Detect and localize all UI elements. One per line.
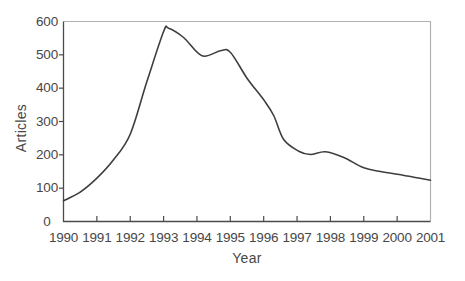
articles-series-line bbox=[64, 26, 431, 201]
y-tick-label-100: 100 bbox=[29, 180, 65, 196]
x-tick-label-1992: 1992 bbox=[113, 230, 147, 246]
y-tick-label-400: 400 bbox=[29, 80, 65, 96]
x-tick-label-1994: 1994 bbox=[180, 230, 214, 246]
y-axis-title: Articles bbox=[13, 88, 29, 168]
x-tick-label-1995: 1995 bbox=[213, 230, 247, 246]
axes-lines bbox=[64, 22, 431, 222]
x-tick-label-1990: 1990 bbox=[47, 230, 81, 246]
y-tick-label-300: 300 bbox=[29, 114, 65, 130]
articles-per-year-line-chart: Articles Year 01002003004005006001990199… bbox=[0, 0, 465, 281]
x-tick-label-2000: 2000 bbox=[380, 230, 414, 246]
x-tick-label-1998: 1998 bbox=[313, 230, 347, 246]
x-tick-label-1996: 1996 bbox=[247, 230, 281, 246]
y-tick-label-600: 600 bbox=[29, 14, 65, 30]
x-axis-title: Year bbox=[207, 250, 287, 266]
y-tick-label-500: 500 bbox=[29, 47, 65, 63]
y-tick-label-0: 0 bbox=[29, 214, 65, 230]
x-tick-label-1991: 1991 bbox=[80, 230, 114, 246]
x-tick-label-2001: 2001 bbox=[414, 230, 448, 246]
x-tick-label-1997: 1997 bbox=[280, 230, 314, 246]
x-tick-label-1999: 1999 bbox=[347, 230, 381, 246]
plot-box-border bbox=[64, 22, 431, 222]
x-tick-label-1993: 1993 bbox=[147, 230, 181, 246]
y-tick-label-200: 200 bbox=[29, 147, 65, 163]
